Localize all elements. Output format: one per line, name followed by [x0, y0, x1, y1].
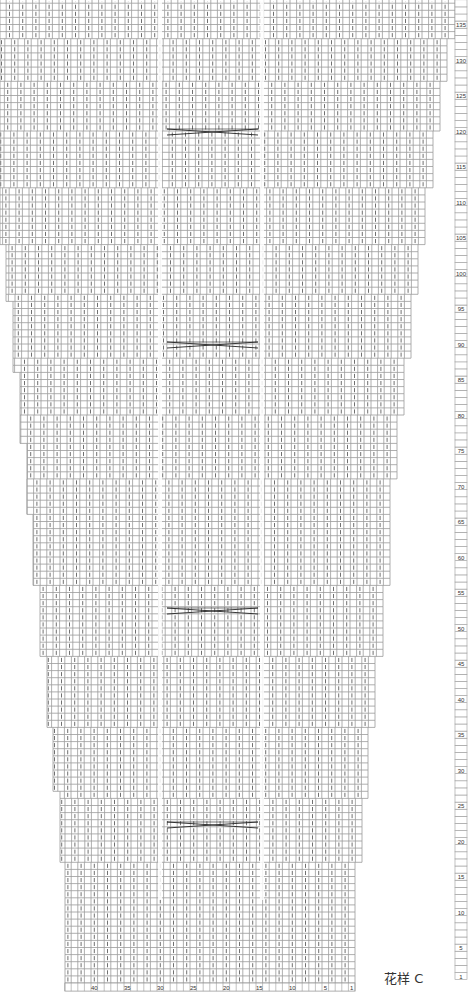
svg-text:110: 110	[456, 200, 466, 206]
svg-text:55: 55	[458, 590, 465, 596]
svg-text:15: 15	[458, 874, 465, 880]
svg-text:90: 90	[458, 342, 465, 348]
svg-text:100: 100	[456, 271, 467, 277]
svg-text:65: 65	[458, 519, 465, 525]
svg-text:45: 45	[458, 661, 465, 667]
svg-text:75: 75	[458, 448, 465, 454]
knitting-chart: 4035302520151051140135130125120115110105…	[0, 0, 473, 1003]
svg-text:60: 60	[458, 555, 465, 561]
svg-text:50: 50	[458, 626, 465, 632]
chart-caption: 花样 C	[384, 968, 423, 987]
svg-text:20: 20	[223, 985, 230, 991]
svg-text:10: 10	[289, 985, 296, 991]
svg-text:35: 35	[458, 732, 465, 738]
svg-text:20: 20	[458, 839, 465, 845]
svg-text:25: 25	[190, 985, 197, 991]
svg-text:70: 70	[458, 484, 465, 490]
svg-text:135: 135	[456, 22, 467, 28]
svg-text:80: 80	[458, 413, 465, 419]
svg-text:40: 40	[458, 697, 465, 703]
svg-text:40: 40	[91, 985, 98, 991]
svg-text:10: 10	[458, 910, 465, 916]
svg-text:25: 25	[458, 803, 465, 809]
svg-text:95: 95	[458, 306, 465, 312]
svg-text:120: 120	[456, 129, 467, 135]
svg-text:35: 35	[124, 985, 131, 991]
svg-text:30: 30	[157, 985, 164, 991]
svg-text:105: 105	[456, 235, 467, 241]
svg-text:85: 85	[458, 377, 465, 383]
svg-text:115: 115	[456, 164, 466, 170]
svg-text:15: 15	[256, 985, 263, 991]
svg-text:30: 30	[458, 768, 465, 774]
svg-text:130: 130	[456, 58, 467, 64]
svg-text:125: 125	[456, 93, 467, 99]
